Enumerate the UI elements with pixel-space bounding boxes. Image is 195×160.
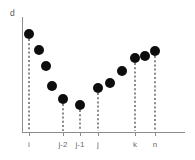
chart-x-tick-labels: i j-2 j-1 j k n	[28, 140, 157, 149]
chart-plot-area: d i j-2 j-1 j k n	[0, 0, 195, 160]
x-tick-label-k: k	[133, 140, 138, 149]
data-point	[130, 53, 140, 63]
x-tick-label-j-1: j-1	[75, 140, 85, 149]
data-point	[140, 51, 150, 61]
data-point	[34, 45, 44, 55]
x-tick-label-i: i	[28, 140, 30, 149]
data-point	[75, 100, 85, 110]
data-point	[93, 83, 103, 93]
x-tick-label-j-2: j-2	[58, 140, 68, 149]
y-axis-label: d	[10, 8, 15, 18]
data-point	[150, 46, 160, 56]
data-point	[105, 78, 115, 88]
data-point	[41, 61, 51, 71]
data-point	[117, 66, 127, 76]
x-tick-label-n: n	[153, 140, 157, 149]
x-tick-label-j: j	[96, 140, 99, 149]
data-point	[24, 29, 34, 39]
data-point	[58, 94, 68, 104]
chart-axes	[22, 17, 185, 133]
chart-data-markers	[24, 29, 160, 110]
data-point	[47, 81, 57, 91]
scatter-stem-chart-figure: d i j-2 j-1 j k n	[0, 0, 195, 160]
